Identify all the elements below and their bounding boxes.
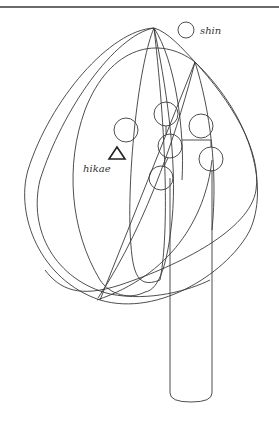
branch-lines bbox=[164, 126, 211, 166]
ikebana-diagram: shin hikae bbox=[0, 0, 279, 427]
shin-marker: shin bbox=[178, 22, 221, 38]
stem-curves bbox=[25, 28, 258, 304]
hikae-label: hikae bbox=[83, 163, 111, 174]
shin-circle-icon bbox=[178, 22, 194, 38]
flower-circle bbox=[149, 166, 173, 190]
hikae-triangle-icon bbox=[109, 147, 125, 159]
shin-label: shin bbox=[200, 25, 221, 36]
hikae-marker: hikae bbox=[83, 147, 125, 174]
